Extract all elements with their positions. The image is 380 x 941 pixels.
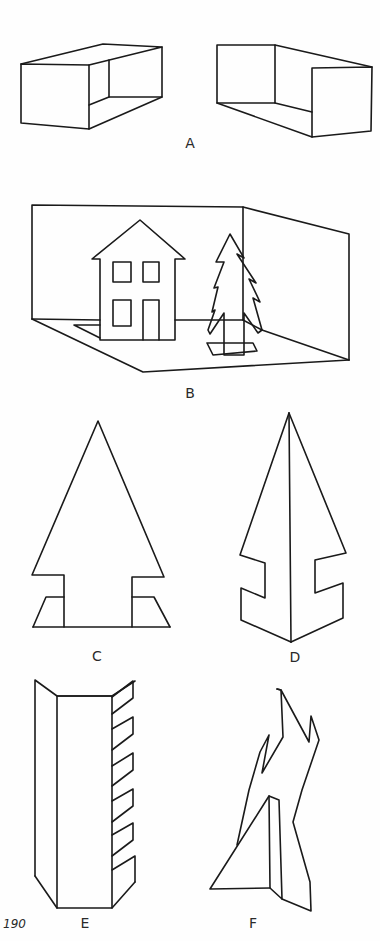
figure-a-left-box: [21, 44, 162, 129]
figure-label-f: F: [249, 916, 257, 930]
figure-b-diorama: [32, 205, 349, 372]
figure-label-d: D: [290, 650, 301, 664]
house-icon: [92, 220, 185, 340]
figure-label-a: A: [185, 136, 195, 150]
figure-e-fringed-column: [35, 680, 135, 908]
page-number: 190: [3, 917, 26, 931]
book-page: A B C D E F 190: [0, 0, 380, 941]
figure-a-right-box: [217, 45, 372, 137]
figure-c-flat-tree: [32, 421, 170, 627]
tree-icon: [207, 234, 262, 355]
figure-label-b: B: [185, 386, 195, 400]
figure-label-e: E: [81, 916, 90, 930]
figure-d-folded-tree: [240, 413, 346, 642]
figure-f-abstract-cutout: [210, 689, 319, 911]
figure-label-c: C: [92, 649, 102, 663]
